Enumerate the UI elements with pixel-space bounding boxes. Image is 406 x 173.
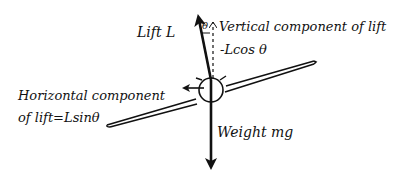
lift-label: Lift L xyxy=(137,25,175,39)
theta-label: θ xyxy=(202,21,208,31)
weight-label: Weight mg xyxy=(217,125,293,139)
vertical-component-formula: -Lcos θ xyxy=(220,43,267,56)
banked-aircraft-force-diagram: Lift L θ Vertical component of lift -Lco… xyxy=(0,0,406,173)
horizontal-component-label: Horizontal component xyxy=(18,89,165,102)
horizontal-component-formula: of lift=Lsinθ xyxy=(18,111,100,124)
vertical-component-label: Vertical component of lift xyxy=(219,20,386,33)
